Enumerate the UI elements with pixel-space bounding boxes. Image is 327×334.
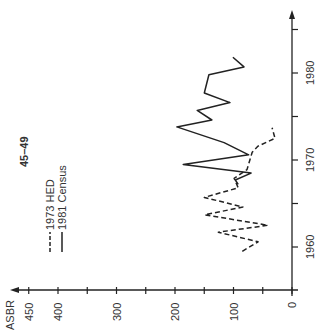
chart-canvas <box>0 0 327 334</box>
chart-title: 45–49 <box>18 136 30 167</box>
series-lines <box>177 57 275 251</box>
asbr-tick-label: 450 <box>23 302 35 320</box>
asbr-axis-arrow-icon <box>10 287 19 293</box>
asbr-axis-label: ASBR <box>4 300 16 330</box>
legend-label-1981-census: 1981 Census <box>56 165 68 230</box>
asbr-tick-label: 100 <box>228 302 240 320</box>
year-tick-label: 1980 <box>304 61 316 85</box>
year-tick-label: 1970 <box>304 148 316 172</box>
year-tick-label: 1960 <box>304 235 316 259</box>
asbr-tick-label: 200 <box>169 302 181 320</box>
asbr-tick-label: 300 <box>111 302 123 320</box>
series-1973-hed-line <box>204 128 275 252</box>
asbr-tick-label: 0 <box>286 302 298 308</box>
legend-label-1973-hed: 1973 HED <box>44 179 56 230</box>
series-1981-census-line <box>177 57 251 184</box>
axes <box>10 10 298 296</box>
asbr-tick-label: 400 <box>52 302 64 320</box>
legend-swatches <box>50 232 62 252</box>
year-axis-arrow-icon <box>289 10 295 19</box>
